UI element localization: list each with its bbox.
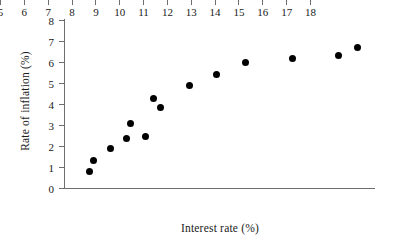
x-axis-tick: 6 [24,0,25,5]
data-points-layer [64,20,374,188]
data-point [242,59,249,66]
x-axis-tick: 13 [191,0,192,5]
x-axis-tick-label: 15 [233,7,244,18]
x-axis-tick-label: 16 [257,7,268,18]
x-axis-tick: 18 [310,0,311,5]
data-point [289,55,296,62]
y-axis-title: Rate of inflation (%) [14,6,36,196]
x-axis-ticks: 56789101112131415161718 [0,0,311,24]
x-axis-tick-label: 17 [281,7,292,18]
data-point [123,135,130,142]
data-point [142,133,149,140]
y-axis-tick-label: 4 [49,99,55,110]
x-axis-tick: 9 [95,0,96,5]
x-axis-tick-label: 10 [114,7,125,18]
y-axis-tick-label: 6 [49,57,55,68]
x-axis-tick: 11 [143,0,144,5]
y-axis-tick-label: 5 [49,78,55,89]
data-point [335,52,342,59]
y-axis-tick-label: 7 [49,36,55,47]
y-axis-tick-label: 0 [49,183,55,194]
x-axis-tick: 7 [48,0,49,5]
data-point [107,145,114,152]
x-axis-tick-label: 7 [45,7,51,18]
x-axis-tick: 12 [167,0,168,5]
data-point [213,71,220,78]
x-axis-tick: 16 [262,0,263,5]
x-axis-tick-label: 14 [210,7,221,18]
y-axis-tick-label: 2 [49,141,55,152]
y-axis-tick-label: 1 [49,162,55,173]
x-axis-tick-label: 13 [186,7,197,18]
data-point [86,168,93,175]
x-axis-tick: 8 [72,0,73,5]
x-axis-tick: 14 [215,0,216,5]
x-axis-tick-label: 5 [0,7,3,18]
data-point [186,82,193,89]
x-axis-tick-label: 8 [69,7,75,18]
scatter-chart-figure: Rate of inflation (%) 012345678 56789101… [0,0,395,250]
data-point [150,95,157,102]
x-axis-tick: 5 [0,0,1,5]
x-axis-tick: 17 [286,0,287,5]
data-point [90,157,97,164]
x-axis-tick-label: 12 [162,7,173,18]
x-axis-tick-label: 11 [138,7,149,18]
y-axis-tick: 0 [59,188,64,189]
x-axis-tick-label: 9 [93,7,99,18]
data-point [127,120,134,127]
x-axis-tick: 10 [119,0,120,5]
data-point [157,104,164,111]
data-point [354,44,361,51]
x-axis-line [64,188,375,189]
plot-area: 012345678 [64,20,374,188]
x-axis-title: Interest rate (%) [55,222,385,234]
x-axis-tick-label: 6 [22,7,28,18]
x-axis-tick-label: 18 [305,7,316,18]
y-axis-tick-label: 3 [49,120,55,131]
x-axis-tick: 15 [238,0,239,5]
